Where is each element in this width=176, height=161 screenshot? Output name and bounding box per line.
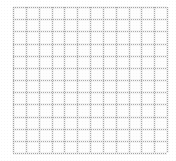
grid-line-vertical-7 xyxy=(103,7,104,153)
grid-line-vertical-11 xyxy=(154,7,155,153)
grid-canvas xyxy=(0,0,176,161)
grid-line-vertical-0 xyxy=(13,7,14,153)
grid-line-vertical-2 xyxy=(39,7,40,153)
grid-line-vertical-5 xyxy=(77,7,78,153)
grid-line-vertical-3 xyxy=(52,7,53,153)
grid-area xyxy=(13,7,167,153)
grid-line-vertical-8 xyxy=(116,7,117,153)
grid-line-vertical-1 xyxy=(26,7,27,153)
grid-line-vertical-4 xyxy=(64,7,65,153)
grid-line-vertical-9 xyxy=(129,7,130,153)
grid-line-vertical-6 xyxy=(90,7,91,153)
grid-line-vertical-12 xyxy=(167,7,168,153)
grid-line-vertical-10 xyxy=(141,7,142,153)
grid-line-horizontal-12 xyxy=(13,153,167,154)
